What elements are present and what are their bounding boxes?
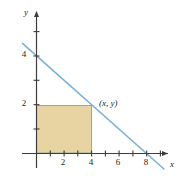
x-axis-arrowhead: [162, 151, 168, 156]
y-axis-label: y: [24, 8, 28, 17]
x-tick-label-2: 2: [58, 158, 68, 167]
x-tick-label-4: 4: [86, 158, 96, 167]
y-tick-label-4: 4: [19, 50, 29, 59]
y-axis-arrowhead: [34, 11, 39, 17]
point-annotation-label: (x, y): [99, 99, 117, 108]
x-tick-label-8: 8: [141, 158, 151, 167]
plot-canvas: [0, 0, 182, 176]
x-axis-label: x: [170, 160, 174, 169]
graph-figure: y x 4 2 2 4 6 8 (x, y): [0, 0, 182, 176]
shaded-rectangle: [37, 106, 92, 154]
y-tick-label-2: 2: [19, 99, 29, 108]
x-tick-label-6: 6: [113, 158, 123, 167]
